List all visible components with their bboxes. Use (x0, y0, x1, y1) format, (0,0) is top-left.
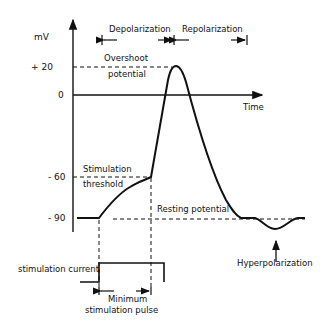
min-pulse-label-1: Minimum (108, 294, 147, 304)
y-tick-minus90: - 90 (48, 213, 66, 223)
overshoot-label-2: potential (108, 69, 146, 79)
action-potential-diagram: mV + 20 0 - 60 - 90 Time Depolarization … (0, 0, 329, 325)
depolarization-label: Depolarization (109, 24, 171, 34)
stimulation-current-label: stimulation current (18, 264, 100, 274)
overshoot-label-1: Overshoot (104, 53, 149, 63)
y-tick-minus60: - 60 (48, 172, 66, 182)
min-pulse-label-2: stimulation pulse (85, 305, 158, 315)
threshold-label-2: threshold (83, 179, 123, 189)
hyperpolarization-label: Hyperpolarization (237, 258, 313, 268)
y-tick-0: 0 (58, 90, 64, 100)
resting-potential-label: Resting potential (157, 204, 229, 214)
phase-markers (102, 35, 247, 45)
repolarization-label: Repolarization (182, 24, 243, 34)
threshold-label-1: Stimulation (83, 164, 132, 174)
x-axis-label: Time (242, 102, 264, 112)
y-tick-plus20: + 20 (31, 62, 53, 72)
y-unit-label: mV (34, 32, 50, 42)
